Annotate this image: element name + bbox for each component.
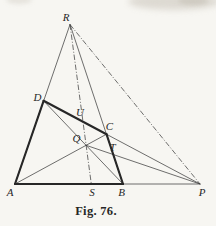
point-label-B: B xyxy=(118,186,125,198)
point-label-C: C xyxy=(106,120,114,132)
point-label-U: U xyxy=(76,106,85,118)
point-label-R: R xyxy=(62,11,70,23)
point-label-S: S xyxy=(89,186,95,198)
point-label-A: A xyxy=(6,186,14,198)
edge-RS xyxy=(70,25,91,185)
point-label-T: T xyxy=(109,141,116,153)
point-label-D: D xyxy=(33,91,42,103)
edge-RP xyxy=(70,25,200,185)
point-label-Q: Q xyxy=(73,132,81,144)
figure-page: ABPRSDCQUT Fig. 76. xyxy=(0,0,216,226)
point-label-P: P xyxy=(198,186,206,198)
edge-QP xyxy=(86,145,200,184)
edge-AD xyxy=(15,101,44,184)
geometry-diagram: ABPRSDCQUT xyxy=(0,0,216,226)
figure-caption: Fig. 76. xyxy=(0,204,192,219)
